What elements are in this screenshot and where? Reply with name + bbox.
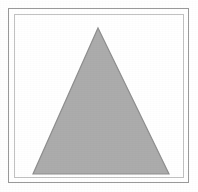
triangle-shape-svg <box>15 15 183 177</box>
figure-root <box>0 0 198 192</box>
gray-triangle <box>33 28 169 174</box>
drawing-canvas <box>15 15 183 177</box>
